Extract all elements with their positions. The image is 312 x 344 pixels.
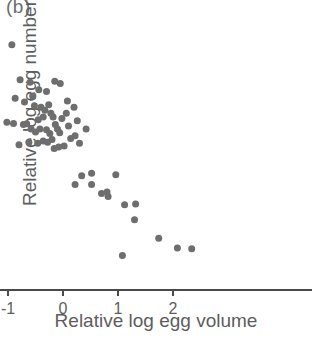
data-point — [51, 145, 58, 152]
data-point — [35, 116, 42, 123]
data-point — [8, 41, 15, 48]
scatter-plot-figure: (b) Relative log egg number Relative log… — [0, 0, 312, 344]
x-tick-label: 0 — [59, 300, 68, 317]
data-point — [64, 97, 71, 104]
x-tick-label: 2 — [169, 300, 178, 317]
data-point — [50, 114, 57, 121]
data-point — [112, 171, 119, 178]
data-point — [105, 193, 112, 200]
data-point — [71, 104, 78, 111]
data-point — [78, 172, 85, 179]
data-point — [155, 235, 162, 242]
data-point — [46, 130, 53, 137]
data-point — [119, 252, 126, 259]
data-point — [188, 245, 195, 252]
data-point — [17, 76, 24, 83]
data-point — [76, 140, 83, 147]
data-point — [83, 126, 90, 133]
data-point — [29, 93, 36, 100]
data-point — [72, 132, 79, 139]
data-point — [74, 117, 81, 124]
x-tick-label: 1 — [114, 300, 123, 317]
data-point — [3, 119, 10, 126]
data-point — [35, 86, 42, 93]
data-point — [36, 126, 43, 133]
data-point — [132, 200, 139, 207]
data-point — [174, 245, 181, 252]
data-point — [63, 110, 70, 117]
data-point — [27, 79, 34, 86]
data-point — [21, 99, 28, 106]
data-point — [121, 201, 128, 208]
data-point — [88, 170, 95, 177]
data-point — [25, 139, 32, 146]
data-point — [10, 120, 17, 127]
data-point — [131, 216, 138, 223]
data-point — [43, 88, 50, 95]
data-point — [56, 129, 63, 136]
data-point — [16, 141, 23, 148]
x-tick-label: -1 — [1, 300, 15, 317]
data-point — [72, 181, 79, 188]
data-point — [57, 80, 64, 87]
data-point — [45, 101, 52, 108]
plot-canvas: -4-3-2-10123-2-1012 — [0, 0, 312, 344]
data-point — [88, 181, 95, 188]
data-point — [31, 102, 38, 109]
data-point — [65, 123, 72, 130]
data-point — [12, 95, 19, 102]
data-point — [34, 140, 41, 147]
